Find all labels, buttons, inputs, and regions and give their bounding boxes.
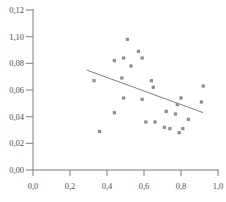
scatter-point — [200, 100, 203, 103]
scatter-point — [120, 76, 123, 79]
scatter-point — [113, 111, 116, 114]
scatter-point — [152, 86, 155, 89]
x-tick-label: 0,6 — [139, 181, 150, 191]
scatter-point — [126, 38, 129, 41]
scatter-point — [179, 96, 182, 99]
y-tick-label: 1,10 — [9, 32, 24, 42]
scatter-point — [122, 96, 125, 99]
scatter-point — [144, 120, 147, 123]
scatter-point — [154, 120, 157, 123]
scatter-point — [150, 79, 153, 82]
scatter-point — [176, 103, 179, 106]
scatter-point — [113, 59, 116, 62]
trend-line — [87, 70, 204, 113]
scatter-plot-figure: 0,000,020,040,060,081,100,120,00,20,40,6… — [0, 0, 226, 202]
scatter-point — [178, 131, 181, 134]
scatter-point — [98, 130, 101, 133]
y-tick-label: 0,08 — [9, 58, 24, 68]
y-tick-label: 0,04 — [9, 112, 25, 122]
x-tick-label: 1,0 — [213, 181, 224, 191]
x-tick-label: 0,8 — [176, 181, 187, 191]
scatter-point — [187, 118, 190, 121]
x-tick-label: 0,2 — [65, 181, 76, 191]
scatter-point — [202, 84, 205, 87]
scatter-point — [174, 112, 177, 115]
x-tick-label: 0,0 — [28, 181, 39, 191]
scatter-point — [168, 127, 171, 130]
scatter-point — [137, 50, 140, 53]
scatter-point — [163, 126, 166, 129]
scatter-point — [92, 79, 95, 82]
y-tick-label: 0,06 — [9, 85, 24, 95]
chart-canvas: 0,000,020,040,060,081,100,120,00,20,40,6… — [0, 0, 226, 202]
scatter-point — [141, 98, 144, 101]
scatter-point — [165, 110, 168, 113]
scatter-point — [129, 64, 132, 67]
scatter-point — [122, 56, 125, 59]
scatter-point — [141, 56, 144, 59]
y-tick-label: 0,00 — [9, 165, 24, 175]
y-tick-label: 0,02 — [9, 138, 24, 148]
y-tick-label: 0,12 — [9, 5, 24, 15]
x-tick-label: 0,4 — [102, 181, 113, 191]
scatter-point — [181, 127, 184, 130]
